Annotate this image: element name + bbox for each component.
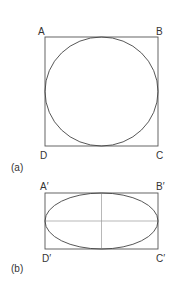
label-b-prime: B′ [156,181,165,192]
diagram: A B D C (a) A′ B′ D′ C′ (b) [0,0,181,285]
label-c: C [156,150,163,161]
label-a-prime: A′ [40,181,49,192]
caption-b: (b) [11,263,23,274]
label-c-prime: C′ [156,253,165,264]
label-d-prime: D′ [42,253,51,264]
label-b: B [156,26,163,37]
figure-b: A′ B′ D′ C′ (b) [11,181,165,274]
label-a: A [38,26,45,37]
figure-a: A B D C (a) [11,26,163,173]
label-d: D [40,150,47,161]
caption-a: (a) [11,162,23,173]
square-abcd [45,37,158,146]
inscribed-circle [45,37,158,146]
